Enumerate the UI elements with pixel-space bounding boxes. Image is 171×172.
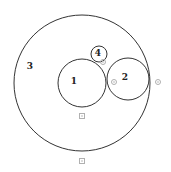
label-circle-2: 2 [122, 72, 128, 82]
label-circle-1: 1 [71, 76, 77, 86]
circle-diagram: 3 1 2 4 [0, 0, 171, 172]
point-marker [112, 80, 117, 85]
label-circle-4: 4 [95, 48, 101, 58]
circle-1 [58, 59, 106, 107]
point-marker [80, 114, 85, 119]
point-marker [156, 80, 161, 85]
point-marker [80, 159, 85, 164]
label-circle-3: 3 [27, 61, 33, 71]
circle-3 [14, 15, 150, 151]
